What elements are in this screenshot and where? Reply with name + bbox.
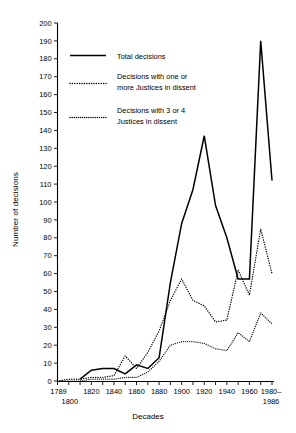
- y-axis-tick-label: 80: [43, 233, 51, 242]
- legend-label-three-or-four-line2: Justices in dissent: [117, 117, 177, 126]
- x-axis-label-1920: 1920: [196, 387, 212, 396]
- y-axis-tick-label: 150: [39, 108, 51, 117]
- y-axis-tick-label: 180: [39, 54, 51, 63]
- series-total-decisions: [80, 41, 272, 379]
- y-axis-tick-label: 130: [39, 144, 51, 153]
- x-axis-label-1980: 1980–: [261, 387, 282, 396]
- x-axis-label-1880: 1880: [151, 387, 167, 396]
- y-axis-tick-label: 30: [43, 323, 51, 332]
- line-chart-svg: 0102030405060708090100110120130140150160…: [0, 0, 296, 433]
- y-axis-tick-label: 160: [39, 90, 51, 99]
- x-axis-label-1960: 1960: [241, 387, 257, 396]
- x-axis-label-1900: 1900: [173, 387, 189, 396]
- y-axis-tick-label: 60: [43, 269, 51, 278]
- y-axis-tick-label: 40: [43, 305, 51, 314]
- legend-label-total-line1: Total decisions: [117, 52, 166, 61]
- y-axis-tick-group: 0102030405060708090100110120130140150160…: [39, 19, 57, 386]
- legend-label-one-or-more-line1: Decisions with one or: [117, 72, 188, 81]
- y-axis-tick-label: 190: [39, 37, 51, 46]
- x-axis-label-1986: 1986: [263, 397, 279, 406]
- y-axis-tick-label: 200: [39, 19, 51, 28]
- y-axis-tick-label: 170: [39, 72, 51, 81]
- y-axis-tick-label: 50: [43, 287, 51, 296]
- y-axis-tick-label: 20: [43, 341, 51, 350]
- x-axis-label-1820: 1820: [83, 387, 99, 396]
- y-axis-tick-label: 140: [39, 126, 51, 135]
- y-axis-tick-label: 70: [43, 251, 51, 260]
- x-axis-label-1800: 1800: [62, 397, 78, 406]
- x-axis-title: Decades: [0, 412, 296, 421]
- legend-label-one-or-more-line2: more Justices in dissent: [117, 83, 196, 92]
- y-axis-tick-label: 10: [43, 359, 51, 368]
- y-axis-tick-label: 100: [39, 198, 51, 207]
- series-layer: [58, 41, 273, 381]
- y-axis-tick-label: 110: [40, 180, 52, 189]
- legend-label-three-or-four-line1: Decisions with 3 or 4: [117, 106, 185, 115]
- x-axis-label-1789: 1789: [50, 387, 66, 396]
- y-axis-tick-label: 90: [43, 216, 51, 225]
- series-one-or-more-dissent: [58, 229, 273, 381]
- x-axis-label-1840: 1840: [106, 387, 122, 396]
- x-axis-label-1940: 1940: [219, 387, 235, 396]
- chart-legend: Total decisions Decisions with one or mo…: [70, 52, 196, 126]
- y-axis-tick-label: 0: [47, 377, 51, 386]
- x-axis-label-1860: 1860: [128, 387, 144, 396]
- chart-figure: Number of decisions 01020304050607080901…: [0, 0, 296, 433]
- x-axis-label-group: 1789180018201840186018801900192019401960…: [50, 387, 282, 406]
- y-axis-tick-label: 120: [39, 162, 51, 171]
